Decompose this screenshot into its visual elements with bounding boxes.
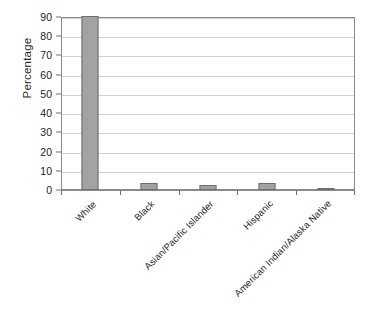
y-axis-tick-labels: 0102030405060708090 [0,17,61,190]
y-axis-tick-label: 30 [40,126,52,138]
bar [258,183,275,190]
y-axis-tick-label: 50 [40,88,52,100]
y-axis-tick-label: 10 [40,165,52,177]
bar-slot [296,17,355,190]
y-axis-tick-label: 90 [40,11,52,23]
x-axis-tick-labels: WhiteBlackAsian/Pacific IslanderHispanic… [0,190,375,313]
plot-area [61,17,355,190]
y-axis-tick-label: 60 [40,69,52,81]
y-axis-tick-label: 70 [40,49,52,61]
x-axis-tick-label: Hispanic [241,198,275,232]
x-axis-tick-label: Black [132,198,157,223]
bar-slot [120,17,179,190]
x-axis-tick-label: White [73,198,98,223]
bar [141,183,158,190]
bar [82,16,99,190]
x-axis-tick-label: American Indian/Alaska Native [232,198,333,299]
bar-chart: Percentage 0102030405060708090 WhiteBlac… [0,0,375,313]
bar-slot [179,17,238,190]
y-axis-tick-label: 80 [40,30,52,42]
bar-slot [237,17,296,190]
y-axis-tick-label: 20 [40,146,52,158]
y-axis-tick-label: 40 [40,107,52,119]
bar-series [61,17,355,190]
bar-slot [61,17,120,190]
